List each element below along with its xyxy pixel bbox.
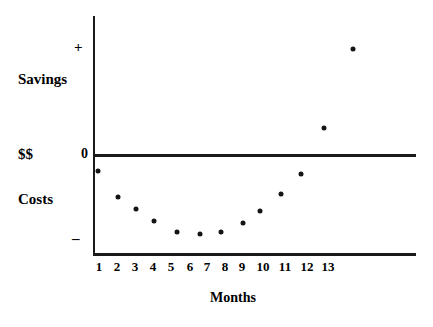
plot-area bbox=[0, 0, 433, 327]
data-point bbox=[258, 209, 263, 214]
data-point bbox=[116, 195, 121, 200]
data-point bbox=[279, 192, 284, 197]
data-point bbox=[96, 169, 101, 174]
data-point bbox=[241, 221, 246, 226]
data-point bbox=[219, 230, 224, 235]
data-point bbox=[351, 47, 356, 52]
data-point bbox=[152, 219, 157, 224]
chart-figure: + Savings $$ 0 Costs – 12345678910111213… bbox=[0, 0, 433, 327]
data-point bbox=[175, 230, 180, 235]
data-point bbox=[322, 126, 327, 131]
data-point bbox=[198, 232, 203, 237]
data-point bbox=[299, 172, 304, 177]
data-point bbox=[134, 207, 139, 212]
